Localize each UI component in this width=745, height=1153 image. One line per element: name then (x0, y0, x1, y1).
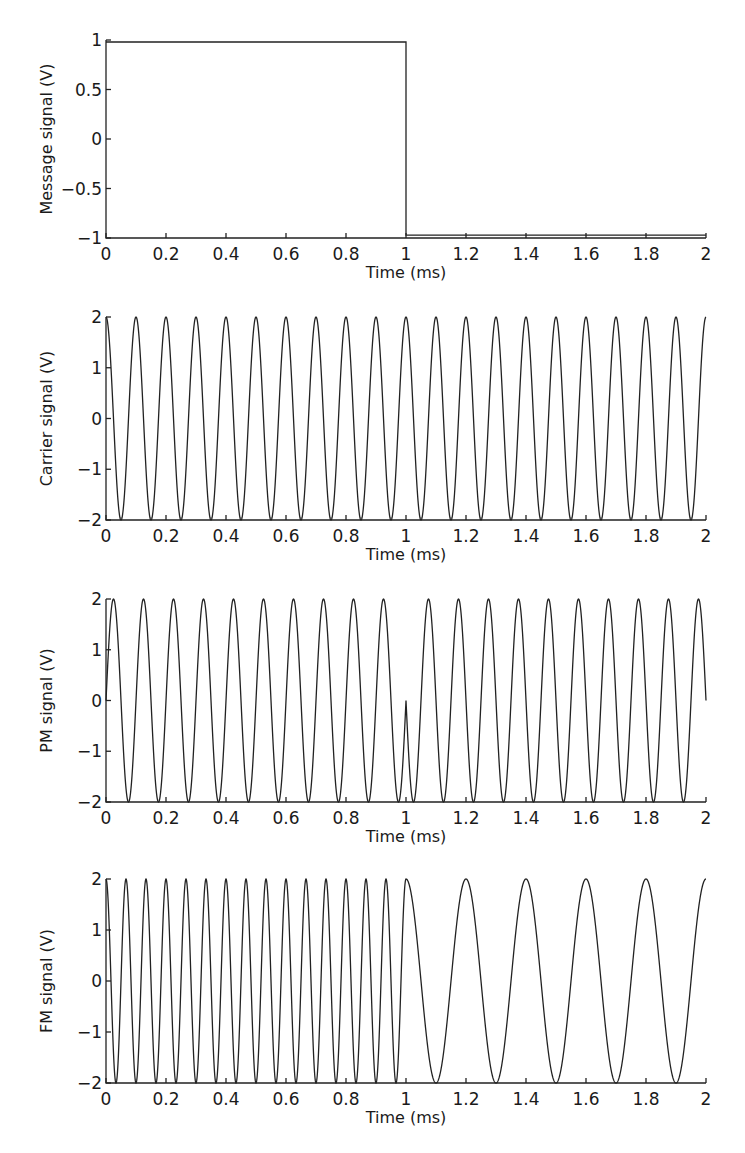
y-tick-label: 0 (91, 129, 102, 149)
y-axis-label: Message signal (V) (37, 63, 56, 214)
axes (106, 879, 706, 1083)
x-tick-label: 0.6 (272, 808, 299, 828)
x-tick-label: 0.6 (272, 1089, 299, 1109)
x-tick-label: 0.2 (152, 244, 179, 264)
x-tick-label: 1.8 (632, 526, 659, 546)
x-tick-label: 0.6 (272, 244, 299, 264)
carrier-signal-panel: 00.20.40.60.811.21.41.61.82210−1−2Time (… (37, 307, 711, 564)
x-tick-label: 1.4 (512, 526, 539, 546)
x-tick-label: 0.2 (152, 1089, 179, 1109)
x-tick-label: 1.8 (632, 244, 659, 264)
y-tick-label: 2 (91, 307, 102, 327)
y-tick-label: −1 (77, 741, 102, 761)
x-tick-label: 1.6 (572, 244, 599, 264)
x-tick-label: 0.8 (332, 526, 359, 546)
x-tick-label: 0.4 (212, 526, 239, 546)
y-axis-label: Carrier signal (V) (37, 351, 56, 487)
x-tick-label: 1.8 (632, 1089, 659, 1109)
x-tick-label: 0 (101, 244, 112, 264)
x-tick-label: 0.8 (332, 244, 359, 264)
x-tick-label: 1.4 (512, 808, 539, 828)
y-tick-label: −0.5 (61, 179, 102, 199)
x-tick-label: 0.4 (212, 1089, 239, 1109)
axes (106, 317, 706, 520)
pm-signal-panel: 00.20.40.60.811.21.41.61.82210−1−2Time (… (37, 589, 711, 846)
x-tick-label: 1.4 (512, 244, 539, 264)
y-axis-label: FM signal (V) (37, 929, 56, 1033)
message-signal-panel: 00.20.40.60.811.21.41.61.8210.50−0.5−1Ti… (37, 30, 711, 282)
y-tick-label: 2 (91, 869, 102, 889)
x-tick-label: 0.8 (332, 1089, 359, 1109)
x-tick-label: 1 (401, 244, 412, 264)
y-tick-label: −2 (77, 1073, 102, 1093)
x-tick-label: 1.6 (572, 1089, 599, 1109)
y-axis-label: PM signal (V) (37, 648, 56, 752)
y-tick-label: −2 (77, 792, 102, 812)
x-axis-label: Time (ms) (365, 263, 447, 282)
x-tick-label: 1.6 (572, 526, 599, 546)
x-tick-label: 1.2 (452, 526, 479, 546)
x-axis-label: Time (ms) (365, 1108, 447, 1127)
fm-trace (106, 879, 706, 1083)
x-tick-label: 2 (701, 526, 712, 546)
x-tick-label: 1.4 (512, 1089, 539, 1109)
y-tick-label: −1 (77, 459, 102, 479)
x-tick-label: 0.8 (332, 808, 359, 828)
y-tick-label: −1 (77, 228, 102, 248)
x-tick-label: 0.2 (152, 808, 179, 828)
x-tick-label: 1 (401, 526, 412, 546)
y-tick-label: 1 (91, 920, 102, 940)
x-tick-label: 0 (101, 808, 112, 828)
x-tick-label: 0.2 (152, 526, 179, 546)
x-axis-label: Time (ms) (365, 827, 447, 846)
x-tick-label: 1.8 (632, 808, 659, 828)
x-tick-label: 1.2 (452, 244, 479, 264)
x-tick-label: 1.2 (452, 1089, 479, 1109)
message-trace (106, 42, 706, 235)
y-tick-label: 2 (91, 589, 102, 609)
y-tick-label: 0 (91, 971, 102, 991)
pm-trace (106, 599, 706, 802)
y-tick-label: 1 (91, 358, 102, 378)
x-axis-label: Time (ms) (365, 545, 447, 564)
x-tick-label: 1.6 (572, 808, 599, 828)
y-tick-label: 1 (91, 30, 102, 50)
x-tick-label: 0.4 (212, 808, 239, 828)
fm-signal-panel: 00.20.40.60.811.21.41.61.82210−1−2Time (… (37, 869, 711, 1127)
y-tick-label: 0 (91, 409, 102, 429)
x-tick-label: 1 (401, 808, 412, 828)
x-tick-label: 1.2 (452, 808, 479, 828)
x-tick-label: 0 (101, 526, 112, 546)
x-tick-label: 1 (401, 1089, 412, 1109)
x-tick-label: 2 (701, 244, 712, 264)
y-tick-label: −1 (77, 1022, 102, 1042)
x-tick-label: 0.6 (272, 526, 299, 546)
x-tick-label: 2 (701, 808, 712, 828)
carrier-trace (106, 317, 706, 520)
y-tick-label: 1 (91, 640, 102, 660)
y-tick-label: 0 (91, 691, 102, 711)
y-tick-label: −2 (77, 510, 102, 530)
x-tick-label: 2 (701, 1089, 712, 1109)
y-tick-label: 0.5 (75, 80, 102, 100)
figure: 00.20.40.60.811.21.41.61.8210.50−0.5−1Ti… (0, 0, 745, 1153)
x-tick-label: 0 (101, 1089, 112, 1109)
x-tick-label: 0.4 (212, 244, 239, 264)
